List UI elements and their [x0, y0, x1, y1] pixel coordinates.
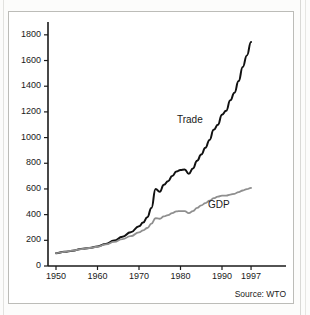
y-tick-label: 1200 [9, 106, 41, 116]
y-tick-label: 1600 [9, 55, 41, 65]
source-note: Source: WTO [235, 289, 286, 299]
y-tick-label: 400 [9, 209, 41, 219]
clipped-caption-above [38, 0, 178, 3]
y-tick-label: 1400 [9, 80, 41, 90]
x-tick-label: 1970 [119, 271, 159, 281]
x-tick-label: 1960 [78, 271, 118, 281]
x-tick-label: 1950 [36, 271, 76, 281]
series-label-trade: Trade [177, 114, 203, 125]
y-tick-label: 1800 [9, 29, 41, 39]
y-tick-label: 800 [9, 157, 41, 167]
x-tick-label: 1997 [231, 271, 271, 281]
line-chart [9, 12, 295, 305]
series-label-gdp: GDP [208, 199, 230, 210]
y-tick-label: 200 [9, 234, 41, 244]
figure-frame: 020040060080010001200140016001800 195019… [8, 11, 294, 304]
x-tick-label: 1980 [161, 271, 201, 281]
page-column-rule-right-outer [305, 0, 306, 315]
y-tick-label: 0 [9, 260, 41, 270]
y-tick-label: 1000 [9, 132, 41, 142]
page-column-rule-right [300, 0, 301, 315]
page-background: 020040060080010001200140016001800 195019… [0, 0, 310, 315]
y-tick-label: 600 [9, 183, 41, 193]
chart-axes [48, 22, 286, 266]
chart-series-group [56, 42, 251, 253]
page-column-rule-left [3, 0, 4, 315]
